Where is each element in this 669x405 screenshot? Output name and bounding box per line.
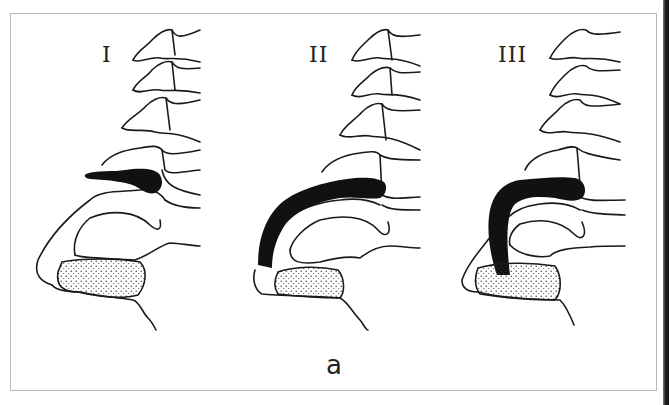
panel-3-label: III [498,44,527,66]
panel-3-dotted-region [476,263,561,300]
panel-3-dark-band [488,177,585,275]
figure-caption: a [320,350,348,380]
panel-1-label: I [102,44,112,66]
cervical-spine-illustrations [0,0,669,405]
panel-2-dotted-region [275,267,344,298]
scan-edge [663,0,669,405]
panel-1-dotted-region [58,259,145,297]
panel-2-dark-band [258,178,386,268]
panel-1-dark-band [85,169,162,194]
panel-2-label: II [309,44,328,66]
